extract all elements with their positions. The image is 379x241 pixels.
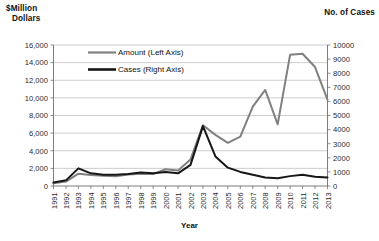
right-axis-tick-label: 10000 xyxy=(333,41,354,50)
left-axis-tick-label: 10,000 xyxy=(25,94,48,103)
left-axis-tick-label: 4,000 xyxy=(29,147,48,156)
x-axis-tick-label: 2003 xyxy=(199,193,208,209)
right-axis-tick-label: 9000 xyxy=(333,55,350,64)
right-axis-tick-label: 8000 xyxy=(333,69,350,78)
x-axis-tick-label: 2004 xyxy=(211,193,220,209)
x-axis-tick-label: 2006 xyxy=(236,193,245,209)
x-axis-tick-label: 2000 xyxy=(162,193,171,209)
right-axis-tick-label: 7000 xyxy=(333,83,350,92)
legend-label-1: Cases (Right Axis) xyxy=(118,65,184,74)
x-axis-title: Year xyxy=(0,221,379,230)
x-axis-tick-label: 2007 xyxy=(249,193,258,209)
x-axis-tick-label: 1993 xyxy=(74,193,83,209)
x-axis-tick-label: 2001 xyxy=(174,193,183,209)
x-axis-tick-label: 2011 xyxy=(299,193,308,209)
x-axis-tick-label: 1997 xyxy=(124,193,133,209)
x-axis-tick-label: 1995 xyxy=(99,193,108,209)
x-axis-tick-label: 2012 xyxy=(311,193,320,209)
x-axis-tick-label: 1996 xyxy=(112,193,121,209)
right-axis-tick-label: 6000 xyxy=(333,97,350,106)
right-axis-tick-label: 2000 xyxy=(333,154,350,163)
x-axis-tick-label: 2013 xyxy=(324,193,333,209)
x-axis-tick-label: 2010 xyxy=(286,193,295,209)
right-axis-tick-label: 3000 xyxy=(333,140,350,149)
right-axis-tick-label: 5000 xyxy=(333,111,350,120)
left-axis-tick-label: 6,000 xyxy=(29,129,48,138)
left-axis-tick-label: 2,000 xyxy=(29,164,48,173)
x-axis-tick-label: 1992 xyxy=(62,193,71,209)
right-axis-tick-label: 4000 xyxy=(333,125,350,134)
x-axis-tick-label: 1998 xyxy=(137,193,146,209)
left-axis-tick-label: 12,000 xyxy=(25,76,48,85)
x-axis-tick-label: 2005 xyxy=(224,193,233,209)
x-axis-tick-label: 2008 xyxy=(261,193,270,209)
left-axis-tick-label: 16,000 xyxy=(25,41,48,50)
legend-label-0: Amount (Left Axis) xyxy=(118,48,184,57)
right-axis-tick-label: 0 xyxy=(333,182,337,191)
x-axis-tick-label: 1999 xyxy=(149,193,158,209)
chart-container: $Million Dollars No. of Cases 02,0004,00… xyxy=(0,0,379,241)
x-axis-tick-label: 1991 xyxy=(50,193,59,209)
series-line-cases xyxy=(54,126,328,182)
x-axis-tick-label: 2009 xyxy=(274,193,283,209)
right-axis-tick-label: 1000 xyxy=(333,168,350,177)
left-axis-tick-label: 8,000 xyxy=(29,111,48,120)
left-axis-tick-label: 0 xyxy=(44,182,48,191)
left-axis-tick-label: 14,000 xyxy=(25,58,48,67)
x-axis-tick-label: 2002 xyxy=(187,193,196,209)
x-axis-tick-label: 1994 xyxy=(87,193,96,209)
line-chart-plot: 02,0004,0006,0008,00010,00012,00014,0001… xyxy=(0,0,379,241)
